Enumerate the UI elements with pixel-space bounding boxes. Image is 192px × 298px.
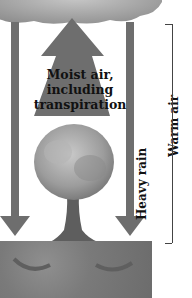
bracket-top-tick	[165, 24, 172, 25]
moist-air-line2: including	[30, 82, 130, 97]
heavy-rain-label: Heavy rain	[135, 148, 151, 220]
tree-icon	[28, 112, 124, 244]
moist-air-line1: Moist air,	[30, 67, 130, 82]
warm-air-bracket	[172, 24, 173, 243]
warm-air-label: Warm air	[167, 91, 183, 161]
soil-flow-arrows-icon	[0, 241, 152, 298]
bracket-bottom-tick	[165, 243, 172, 244]
moist-air-label: Moist air, including transpiration	[30, 67, 130, 112]
moist-air-line3: transpiration	[30, 97, 130, 112]
